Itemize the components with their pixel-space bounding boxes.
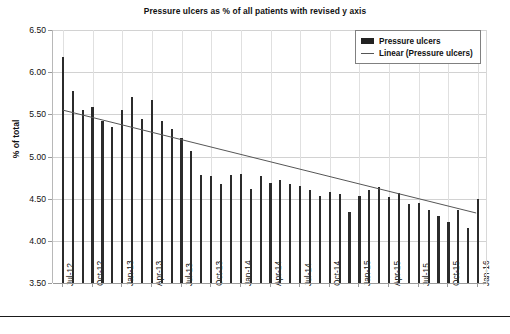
bar xyxy=(428,210,430,283)
bar xyxy=(388,197,390,283)
bar xyxy=(269,183,271,283)
bar xyxy=(437,216,439,283)
chart-legend: Pressure ulcers Linear (Pressure ulcers) xyxy=(355,30,481,64)
bar xyxy=(447,222,449,283)
y-tick-label: 5.50 xyxy=(0,109,46,119)
y-tick-label: 5.00 xyxy=(0,152,46,162)
bar xyxy=(161,121,163,283)
bar xyxy=(467,228,469,283)
y-tick-label: 4.50 xyxy=(0,194,46,204)
bar xyxy=(408,204,410,283)
bar xyxy=(62,57,64,283)
bar xyxy=(230,175,232,283)
footer-divider xyxy=(0,316,510,317)
gridline-y xyxy=(53,283,486,284)
bar xyxy=(180,138,182,283)
bar xyxy=(378,187,380,283)
bar xyxy=(299,186,301,283)
bar xyxy=(190,151,192,283)
gridline-y xyxy=(53,157,486,158)
footer-text xyxy=(4,322,510,334)
bar xyxy=(72,91,74,283)
bar xyxy=(171,129,173,283)
legend-label-bars: Pressure ulcers xyxy=(379,37,440,46)
bar xyxy=(477,199,479,283)
bar xyxy=(131,97,133,283)
bar xyxy=(418,203,420,283)
bar xyxy=(457,210,459,283)
gridline-y xyxy=(53,72,486,73)
bar xyxy=(329,192,331,283)
y-tick-mark xyxy=(48,283,52,284)
legend-label-trend: Linear (Pressure ulcers) xyxy=(379,49,473,58)
plot-area xyxy=(52,30,487,283)
line-swatch-icon xyxy=(361,53,374,54)
bar xyxy=(101,121,103,283)
bar xyxy=(279,180,281,283)
chart-title: Pressure ulcers as % of all patients wit… xyxy=(0,6,510,16)
bar xyxy=(398,193,400,283)
bar xyxy=(82,110,84,283)
bar xyxy=(151,100,153,283)
bar xyxy=(368,190,370,283)
bar xyxy=(250,189,252,283)
chart-container: Pressure ulcers as % of all patients wit… xyxy=(0,0,510,334)
bar-swatch-icon xyxy=(361,38,374,44)
bar xyxy=(220,184,222,283)
bar xyxy=(319,196,321,283)
bar xyxy=(348,212,350,283)
bar xyxy=(358,196,360,283)
bar xyxy=(141,119,143,283)
bar xyxy=(91,107,93,283)
bar xyxy=(339,194,341,283)
bar xyxy=(121,110,123,283)
legend-item-bars: Pressure ulcers xyxy=(361,35,475,47)
bar xyxy=(289,184,291,283)
gridline-y xyxy=(53,114,486,115)
bar xyxy=(240,174,242,283)
y-tick-label: 4.00 xyxy=(0,236,46,246)
bar xyxy=(210,176,212,283)
bar xyxy=(309,190,311,283)
y-tick-label: 3.50 xyxy=(0,278,46,288)
bar xyxy=(111,127,113,283)
legend-item-trend: Linear (Pressure ulcers) xyxy=(361,47,475,59)
y-tick-label: 6.00 xyxy=(0,67,46,77)
bar xyxy=(260,176,262,283)
bar xyxy=(200,175,202,283)
y-tick-label: 6.50 xyxy=(0,25,46,35)
